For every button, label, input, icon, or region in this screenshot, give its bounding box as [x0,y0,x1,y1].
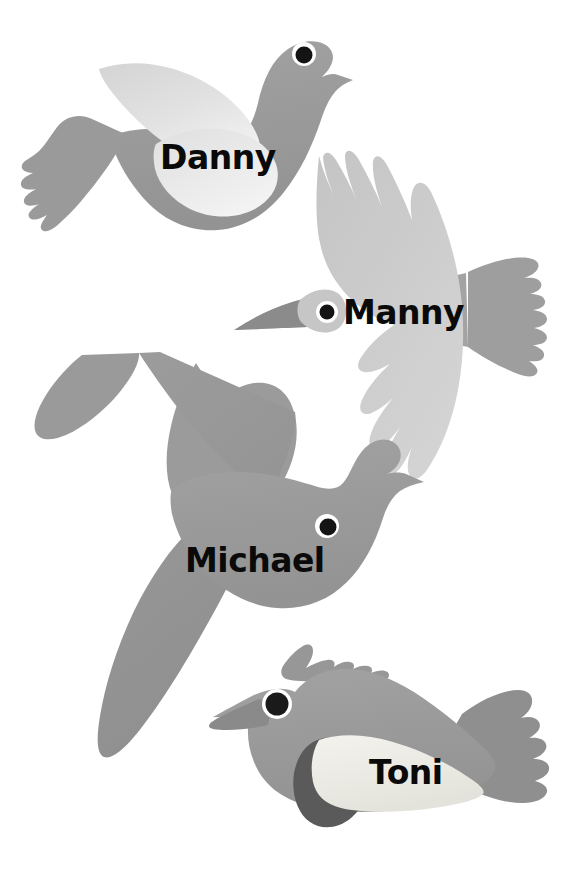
danny-eye-pupil [296,47,313,64]
danny-tail-shape [21,116,125,231]
bird-label-toni: Toni [369,756,443,789]
michael-tail-shape [34,353,139,439]
illustration-canvas: Danny Manny Michael Toni [0,0,582,877]
bird-label-manny: Manny [343,296,464,329]
manny-tail-shape [468,258,547,377]
bird-label-michael: Michael [185,544,325,577]
toni-eye-pupil [266,693,289,716]
birds-illustration [0,0,582,877]
michael-eye-pupil [320,519,337,536]
bird-label-danny: Danny [160,141,276,174]
bird-toni[interactable] [209,645,549,828]
manny-eye-pupil [320,305,335,320]
bird-danny[interactable] [21,41,353,231]
